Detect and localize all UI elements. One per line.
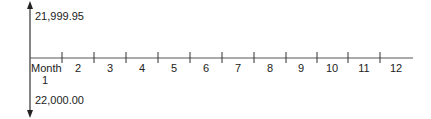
month-label: 5 [164, 62, 184, 74]
month-label: 10 [322, 62, 342, 74]
y-top-label: 21,999.95 [35, 10, 84, 22]
month-label: 3 [100, 62, 120, 74]
month-label: 4 [132, 62, 152, 74]
month-label: 11 [354, 62, 374, 74]
month-label: 7 [228, 62, 248, 74]
y-bottom-label: 22,000.00 [35, 94, 84, 106]
month-label: 2 [68, 62, 88, 74]
month-start-sublabel: 1 [42, 74, 48, 86]
month-label: 6 [196, 62, 216, 74]
month-label: 9 [291, 62, 311, 74]
down-arrow-icon [27, 110, 33, 118]
month-label: 8 [260, 62, 280, 74]
up-arrow-icon [27, 1, 33, 9]
month-start-label: Month [31, 62, 62, 74]
month-label: 12 [386, 62, 406, 74]
